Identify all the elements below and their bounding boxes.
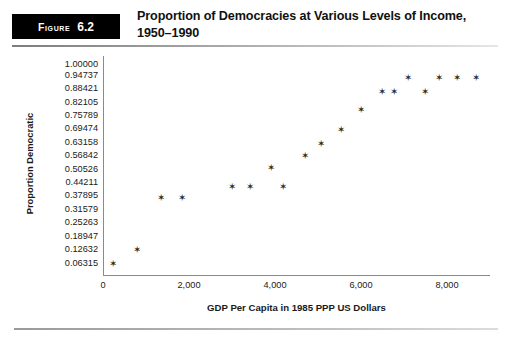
x-axis-tick-labels: 02,0004,0006,0008,000 xyxy=(0,280,510,296)
data-point: ✶ xyxy=(300,151,309,160)
footer-divider xyxy=(14,328,498,330)
data-point: ✶ xyxy=(316,139,325,148)
y-axis-tick-label: 0.37895 xyxy=(46,191,98,200)
header-divider xyxy=(12,45,498,47)
data-point: ✶ xyxy=(453,73,462,82)
data-point: ✶ xyxy=(157,193,166,202)
y-axis-tick-label: 0.56842 xyxy=(46,151,98,160)
y-axis-tick-label: 0.12632 xyxy=(46,245,98,254)
x-axis-tick-label: 2,000 xyxy=(159,280,219,290)
data-point: ✶ xyxy=(133,245,142,254)
data-point: ✶ xyxy=(404,73,413,82)
y-axis-tick-label: 0.63158 xyxy=(46,138,98,147)
x-axis-tick-label: 8,000 xyxy=(417,280,477,290)
x-axis-title: GDP Per Capita in 1985 PPP US Dollars xyxy=(103,302,490,313)
y-axis-tick-label: 0.69474 xyxy=(46,124,98,133)
figure-badge-word: Figure xyxy=(38,21,70,33)
data-point: ✶ xyxy=(177,193,186,202)
y-axis-title: Proportion Democratic xyxy=(24,99,35,229)
y-axis-tick-label: 0.82105 xyxy=(46,98,98,107)
data-point: ✶ xyxy=(357,105,366,114)
x-axis-tick-label: 4,000 xyxy=(245,280,305,290)
y-axis-tick-label: 0.31579 xyxy=(46,205,98,214)
data-point: ✶ xyxy=(245,182,254,191)
figure-badge: Figure 6.2 xyxy=(12,14,120,39)
y-axis-tick-label: 0.94737 xyxy=(46,71,98,80)
data-point: ✶ xyxy=(420,87,429,96)
y-axis-tick-label: 0.50526 xyxy=(46,165,98,174)
scatter-chart: Proportion Democratic 1.000000.947370.88… xyxy=(0,50,510,338)
data-point: ✶ xyxy=(377,87,386,96)
x-axis-tick-label: 0 xyxy=(73,280,133,290)
data-point: ✶ xyxy=(278,182,287,191)
x-axis-tick-label: 6,000 xyxy=(331,280,391,290)
y-axis-tick-label: 1.00000 xyxy=(46,60,98,69)
data-point: ✶ xyxy=(471,73,480,82)
y-axis-tick-label: 0.25263 xyxy=(46,218,98,227)
data-point: ✶ xyxy=(337,125,346,134)
figure-badge-number: 6.2 xyxy=(77,20,94,34)
y-axis-tick-label: 0.18947 xyxy=(46,232,98,241)
data-point: ✶ xyxy=(228,182,237,191)
figure-title: Proportion of Democracies at Various Lev… xyxy=(137,8,487,41)
y-axis-tick-label: 0.88421 xyxy=(46,84,98,93)
figure-header: Figure 6.2 Proportion of Democracies at … xyxy=(0,0,510,50)
data-point: ✶ xyxy=(434,73,443,82)
x-axis-line xyxy=(103,275,490,276)
y-axis-tick-label: 0.06315 xyxy=(46,259,98,268)
plot-area: ✶✶✶✶✶✶✶✶✶✶✶✶✶✶✶✶✶✶✶ xyxy=(103,55,490,275)
data-point: ✶ xyxy=(108,259,117,268)
data-point: ✶ xyxy=(267,163,276,172)
data-point: ✶ xyxy=(389,87,398,96)
y-axis-tick-label: 0.44211 xyxy=(46,178,98,187)
y-axis-tick-labels: 1.000000.947370.884210.821050.757890.694… xyxy=(46,50,98,280)
y-axis-tick-label: 0.75789 xyxy=(46,111,98,120)
